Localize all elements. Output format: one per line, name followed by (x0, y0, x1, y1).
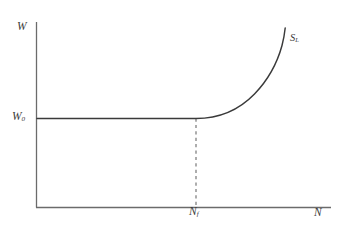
y-axis-title: W (17, 21, 27, 33)
curve-label-sl: SL (290, 33, 299, 44)
y-axis-tick-label-w0: W0 (12, 111, 25, 123)
curve-label-subscript: L (295, 36, 299, 43)
x-tick-base: N (189, 205, 197, 217)
x-axis-title: N (314, 207, 322, 219)
labour-supply-chart: W W0 Nf N SL (0, 0, 349, 234)
y-tick-base: W (12, 110, 22, 122)
x-tick-subscript: f (197, 210, 199, 218)
y-tick-subscript: 0 (22, 115, 26, 123)
x-axis-tick-label-nf: Nf (189, 206, 199, 218)
